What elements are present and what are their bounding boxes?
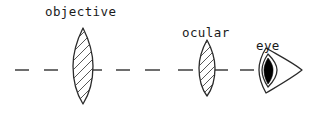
eye-pupil bbox=[264, 58, 273, 84]
optics-diagram: objective ocular eye bbox=[0, 0, 326, 117]
optics-canvas: objective ocular eye bbox=[0, 0, 326, 117]
objective-lens bbox=[68, 18, 98, 117]
objective-lens-outline bbox=[73, 28, 93, 104]
ocular-lens bbox=[195, 30, 219, 117]
label-objective: objective bbox=[45, 4, 116, 19]
label-eye: eye bbox=[256, 38, 280, 53]
eye bbox=[259, 48, 302, 93]
label-ocular: ocular bbox=[182, 25, 230, 40]
